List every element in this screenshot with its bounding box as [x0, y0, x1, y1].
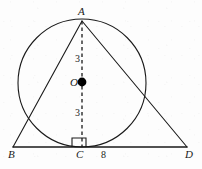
measure-label-oc: 3 [75, 108, 80, 118]
measure-label-ao: 3 [75, 54, 80, 64]
vertex-label-d: D [185, 149, 193, 160]
geometry-figure: A B C D O 3 3 8 [0, 0, 202, 169]
segment-ad [82, 21, 187, 147]
right-angle-marker [72, 138, 86, 147]
vertex-label-b: B [8, 149, 15, 160]
measure-label-cd: 8 [101, 150, 106, 160]
vertex-label-a: A [78, 6, 85, 17]
center-label-o: O [70, 77, 78, 88]
figure-canvas [0, 0, 202, 169]
center-point-dot [78, 78, 87, 87]
vertex-label-c: C [76, 149, 83, 160]
